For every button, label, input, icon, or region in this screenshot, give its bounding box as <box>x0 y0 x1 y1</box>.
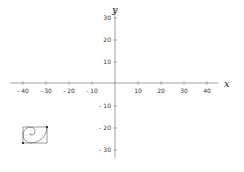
x-tick-label: 20 <box>157 87 165 94</box>
x-tick-label: 40 <box>203 87 211 94</box>
x-tick-label: - 40 <box>17 87 29 94</box>
point-bottom-left <box>22 142 24 144</box>
y-tick-label: 30 <box>103 14 111 21</box>
x-axis-label: x <box>224 78 230 89</box>
y-ticks: 30 20 10 - 10 - 20 - 30 <box>99 14 117 153</box>
y-tick-label: - 30 <box>99 146 111 153</box>
x-tick-label: 30 <box>180 87 188 94</box>
x-tick-label: - 30 <box>40 87 52 94</box>
y-tick-label: - 20 <box>99 124 111 131</box>
y-tick-label: - 10 <box>99 102 111 109</box>
coordinate-plane: x y - 40 - 30 - 20 - 10 10 20 30 40 30 2… <box>0 0 244 172</box>
x-tick-label: - 10 <box>86 87 98 94</box>
y-tick-label: 20 <box>103 36 111 43</box>
point-top-right <box>46 126 48 128</box>
x-tick-label: 10 <box>134 87 142 94</box>
spiral-figure <box>22 126 48 144</box>
y-tick-label: 10 <box>103 58 111 65</box>
x-tick-label: - 20 <box>63 87 75 94</box>
y-axis-label: y <box>111 4 118 15</box>
